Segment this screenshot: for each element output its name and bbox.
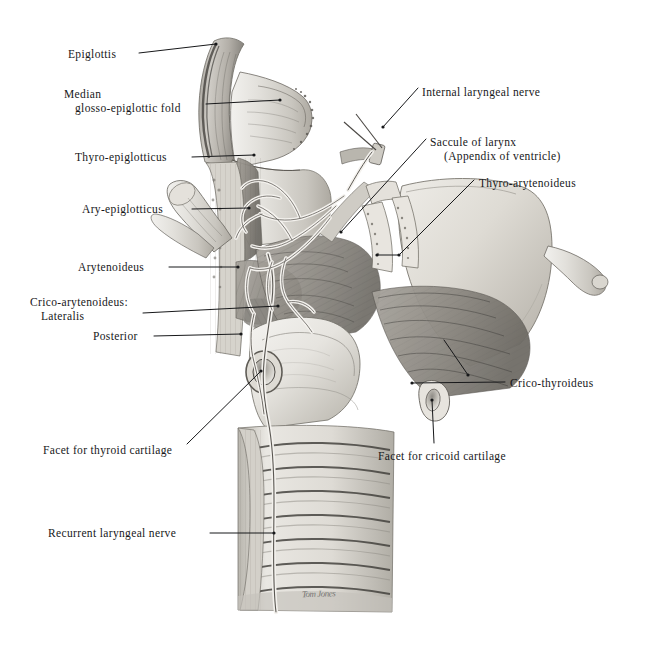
label-text: Arytenoideus: [78, 261, 144, 273]
label-arytenoideus: Arytenoideus: [78, 261, 144, 275]
label-thyro-arytenoideus: Thyro-arytenoideus: [479, 177, 576, 191]
label-epiglottis: Epiglottis: [68, 48, 116, 62]
anatomical-plate: Tom Jones EpiglottisMedianglosso-epiglot…: [0, 0, 646, 647]
label-text: Facet for thyroid cartilage: [43, 444, 172, 456]
label-saccule-of-larynx: Saccule of larynx(Appendix of ventricle): [430, 136, 561, 163]
label-crico-thyroideus: Crico-thyroideus: [510, 377, 594, 391]
label-text-line2: Lateralis: [30, 310, 128, 324]
label-text: Thyro-arytenoideus: [479, 177, 576, 189]
label-text: Ary-epiglotticus: [82, 203, 163, 215]
label-text: Saccule of larynx: [430, 136, 516, 148]
label-facet-for-thyroid-cartilage: Facet for thyroid cartilage: [43, 444, 172, 458]
label-median-glosso-epiglottic-fold: Medianglosso-epiglottic fold: [64, 88, 181, 115]
label-text: Median: [64, 88, 101, 100]
label-text: Crico-arytenoideus:: [30, 296, 128, 308]
label-posterior: Posterior: [93, 330, 138, 344]
label-crico-arytenoideus: Crico-arytenoideus:Lateralis: [30, 296, 128, 323]
label-text: Facet for cricoid cartilage: [378, 450, 506, 462]
label-text: Internal laryngeal nerve: [422, 86, 540, 98]
label-thyro-epiglotticus: Thyro-epiglotticus: [75, 151, 167, 165]
label-ary-epiglotticus: Ary-epiglotticus: [82, 203, 163, 217]
label-text: Epiglottis: [68, 48, 116, 60]
label-recurrent-laryngeal-nerve: Recurrent laryngeal nerve: [48, 527, 176, 541]
artist-signature: Tom Jones: [302, 587, 389, 611]
label-text: Recurrent laryngeal nerve: [48, 527, 176, 539]
label-text: Crico-thyroideus: [510, 377, 594, 389]
label-internal-laryngeal-nerve: Internal laryngeal nerve: [422, 86, 540, 100]
label-facet-for-cricoid-cartilage: Facet for cricoid cartilage: [378, 450, 506, 464]
label-text-line2: glosso-epiglottic fold: [64, 102, 181, 116]
label-text: Thyro-epiglotticus: [75, 151, 167, 163]
label-text: Posterior: [93, 330, 138, 342]
label-text-line2: (Appendix of ventricle): [430, 150, 561, 164]
